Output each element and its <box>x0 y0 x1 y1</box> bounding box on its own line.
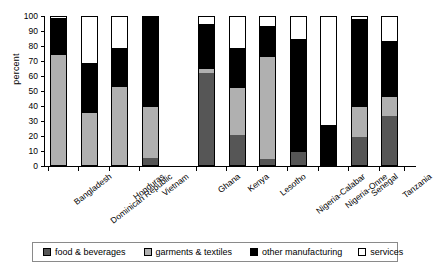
legend-swatch-icon <box>250 248 258 256</box>
bar-segment-other <box>352 19 367 108</box>
x-tick-mark <box>257 167 258 171</box>
y-tick-label: 100 <box>14 12 38 21</box>
bar-segment-other <box>82 63 97 113</box>
bar-segment-other <box>230 48 245 88</box>
legend-label: garments & textiles <box>156 247 233 257</box>
legend-item: food & beverages <box>33 247 144 257</box>
x-tick-mark <box>404 167 405 171</box>
bar-segment-food <box>352 137 367 165</box>
bar-segment-food <box>143 158 158 165</box>
x-tick-mark <box>318 167 319 171</box>
legend-item: garments & textiles <box>144 247 251 257</box>
x-tick-mark <box>379 167 380 171</box>
x-tick-mark <box>139 167 140 171</box>
bar-nigeria-onne <box>320 16 337 166</box>
bar-segment-services <box>382 17 397 41</box>
x-tick-mark <box>226 167 227 171</box>
bar-segment-garments <box>260 57 275 159</box>
bar-segment-garments <box>112 87 127 165</box>
legend-item: services <box>358 247 403 257</box>
bar-segment-garments <box>143 107 158 157</box>
bar-segment-services <box>291 17 306 39</box>
bar-bangladesh <box>50 16 67 166</box>
bar-segment-services <box>260 17 275 26</box>
y-tick-label: 70 <box>14 57 38 66</box>
y-tick-label: 40 <box>14 102 38 111</box>
y-tick-label: 30 <box>14 117 38 126</box>
x-tick-mark <box>48 167 49 171</box>
bar-segment-food <box>199 73 214 165</box>
plot-area <box>44 16 416 166</box>
x-tick-label: Lesotho <box>278 172 307 198</box>
bar-segment-garments <box>51 55 66 165</box>
bar-segment-other <box>143 17 158 107</box>
legend-swatch-icon <box>43 248 51 256</box>
bar-segment-garments <box>82 113 97 165</box>
x-axis-line <box>44 166 416 167</box>
x-tick-label: Tanzania <box>401 172 433 200</box>
legend-item: other manufacturing <box>250 247 358 257</box>
y-tick-label: 10 <box>14 147 38 156</box>
legend-label: services <box>370 247 403 257</box>
bar-segment-garments <box>230 88 245 135</box>
bar-tanzania <box>381 16 398 166</box>
y-tick-label: 20 <box>14 132 38 141</box>
bar-vietnam <box>142 16 159 166</box>
x-tick-mark <box>287 167 288 171</box>
bar-segment-other <box>112 48 127 86</box>
bar-lesotho <box>259 16 276 166</box>
bar-segment-food <box>260 159 275 165</box>
bar-segment-other <box>51 18 66 55</box>
bar-segment-services <box>321 17 336 125</box>
bar-segment-food <box>291 152 306 165</box>
x-tick-label: Bangladesh <box>72 172 113 207</box>
bar-ghana <box>198 16 215 166</box>
x-tick-label: Ghana <box>216 172 242 195</box>
bar-dominican-republic <box>81 16 98 166</box>
x-tick-mark <box>348 167 349 171</box>
legend-label: other manufacturing <box>262 247 342 257</box>
y-tick-label: 0 <box>14 162 38 171</box>
bar-segment-services <box>230 17 245 48</box>
bar-kenya <box>229 16 246 166</box>
bar-honduras <box>111 16 128 166</box>
bar-segment-garments <box>352 107 367 137</box>
bar-segment-services <box>82 17 97 63</box>
legend-swatch-icon <box>358 248 366 256</box>
bar-segment-other <box>321 125 336 165</box>
legend-swatch-icon <box>144 248 152 256</box>
bar-segment-other <box>291 39 306 151</box>
bar-segment-other <box>199 24 214 68</box>
y-tick-label: 80 <box>14 42 38 51</box>
y-tick-label: 90 <box>14 27 38 36</box>
chart-legend: food & beveragesgarments & textilesother… <box>32 242 398 262</box>
bar-senegal <box>351 16 368 166</box>
y-tick-label: 60 <box>14 72 38 81</box>
x-tick-mark <box>196 167 197 171</box>
bar-segment-other <box>382 41 397 97</box>
bar-segment-other <box>260 26 275 57</box>
x-tick-mark <box>109 167 110 171</box>
bar-segment-services <box>112 17 127 48</box>
bar-segment-food <box>230 135 245 165</box>
bar-segment-food <box>382 116 397 165</box>
bar-segment-garments <box>382 97 397 116</box>
y-tick-mark <box>41 166 44 167</box>
x-tick-mark <box>78 167 79 171</box>
bar-segment-services <box>199 17 214 24</box>
legend-label: food & beverages <box>55 247 126 257</box>
y-tick-label: 50 <box>14 87 38 96</box>
x-tick-label: Kenya <box>246 172 271 194</box>
bar-nigeria-calabar <box>290 16 307 166</box>
